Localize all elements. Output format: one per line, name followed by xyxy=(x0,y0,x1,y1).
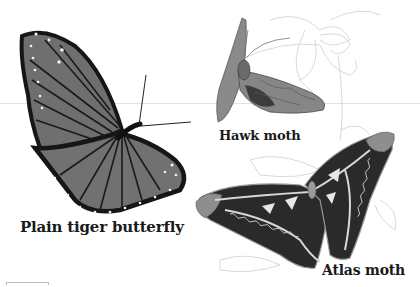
hawk-moth xyxy=(217,18,325,122)
label-plain-tiger-butterfly: Plain tiger butterfly xyxy=(20,218,184,236)
scale-bar xyxy=(6,282,49,285)
label-atlas-moth: Atlas moth xyxy=(322,262,405,278)
illustration-canvas: Plain tiger butterfly Hawk moth Atlas mo… xyxy=(0,0,420,287)
atlas-moth xyxy=(196,132,394,268)
specimens-drawing xyxy=(0,0,420,287)
label-hawk-moth: Hawk moth xyxy=(219,128,301,143)
plain-tiger-butterfly xyxy=(22,32,191,213)
